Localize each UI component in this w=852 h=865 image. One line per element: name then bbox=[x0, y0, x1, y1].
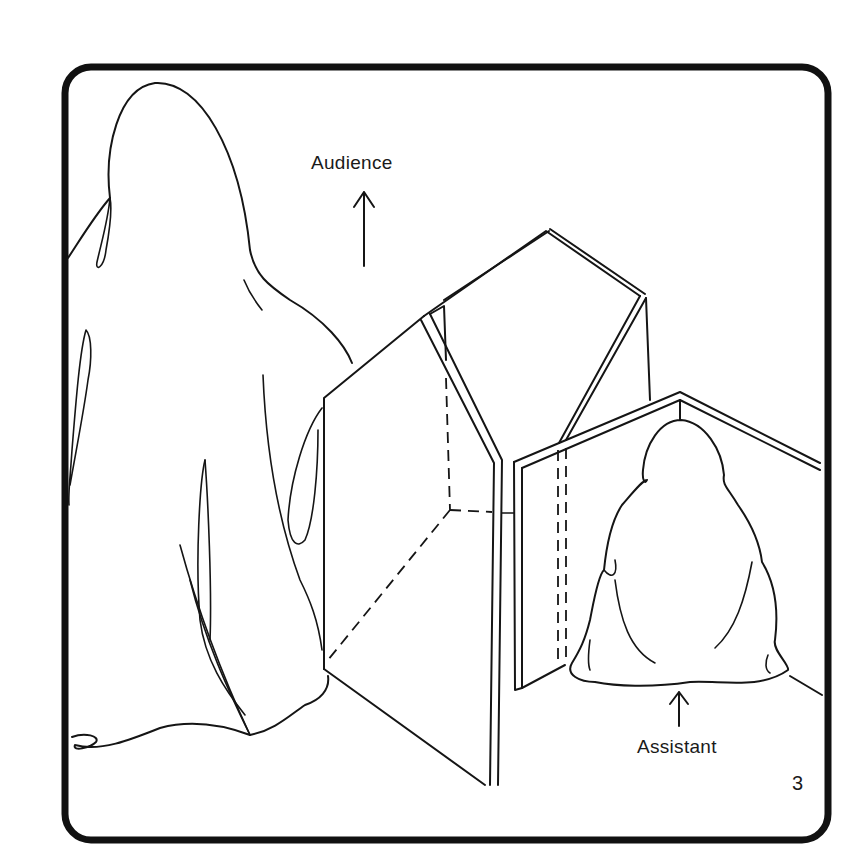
illustration-drawing bbox=[0, 0, 852, 865]
cabinet-prop bbox=[324, 229, 822, 785]
page-number: 3 bbox=[792, 772, 803, 795]
assistant-label: Assistant bbox=[637, 736, 717, 758]
assistant-arrow-icon bbox=[670, 692, 688, 726]
audience-label: Audience bbox=[311, 152, 393, 174]
performer-figure bbox=[68, 83, 352, 749]
illustration-panel: Audience Assistant 3 bbox=[0, 0, 852, 865]
assistant-figure bbox=[570, 420, 788, 686]
audience-arrow-icon bbox=[354, 192, 374, 266]
